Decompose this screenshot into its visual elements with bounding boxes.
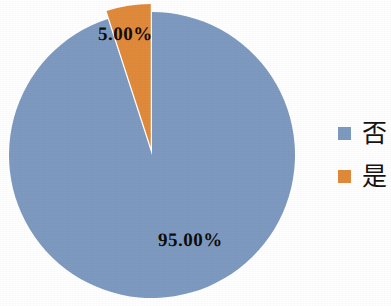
legend-entry-yes[interactable]: 是 (338, 155, 391, 198)
pie-plot-area: 5.00% 95.00% (0, 0, 310, 306)
legend-label-yes: 是 (362, 164, 387, 189)
legend-swatch-no-icon (338, 127, 351, 140)
legend-label-no: 否 (362, 121, 387, 146)
legend-entry-no[interactable]: 否 (338, 112, 391, 155)
pie-svg (0, 0, 310, 306)
pie-chart-figure: 5.00% 95.00% 否 是 (0, 0, 391, 306)
slice-label-yes: 5.00% (98, 24, 153, 46)
pie-slice-no[interactable] (9, 12, 295, 298)
chart-legend: 否 是 (338, 112, 391, 198)
slice-label-no: 95.00% (158, 230, 223, 252)
legend-swatch-yes-icon (338, 170, 351, 183)
